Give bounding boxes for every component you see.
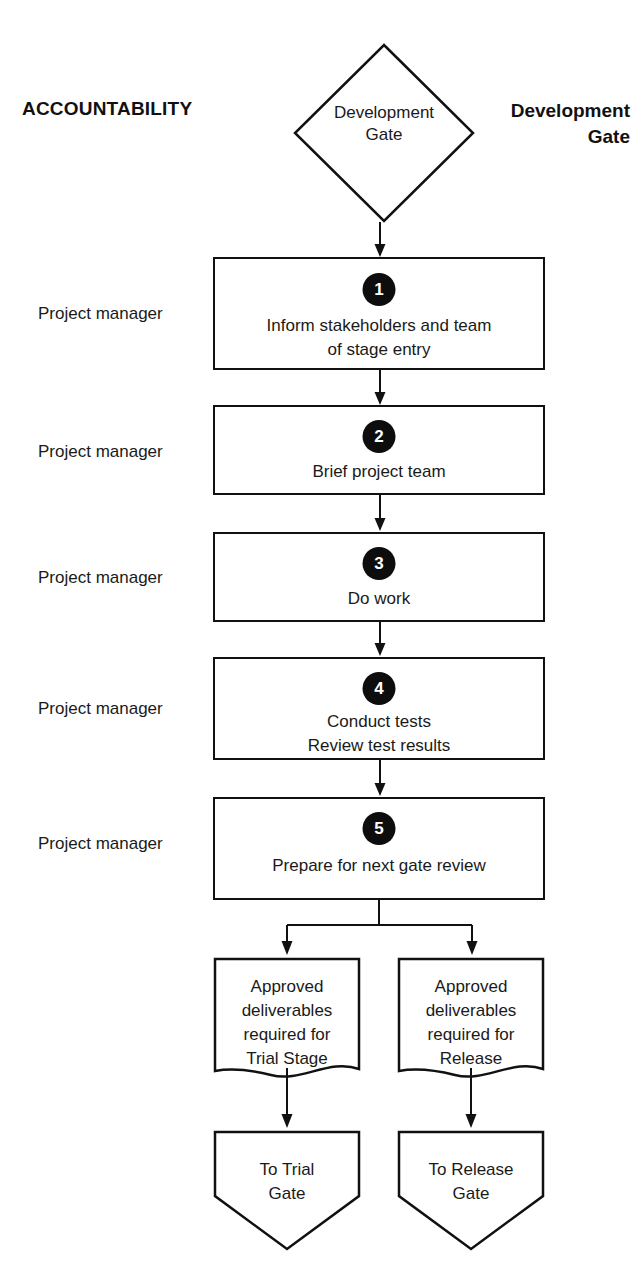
document-deliverables-release-line2: deliverables: [397, 999, 545, 1023]
process-box-step3[interactable]: 3 Do work: [213, 532, 545, 622]
process-box-step3-line1: Do work: [215, 587, 543, 611]
role-label-step4: Project manager: [38, 698, 206, 719]
process-box-step1[interactable]: 1 Inform stakeholders and team of stage …: [213, 257, 545, 370]
terminator-to-trial-gate-line2: Gate: [213, 1182, 361, 1206]
role-label-step2: Project manager: [38, 441, 206, 462]
connector-gate-to-step1: [371, 222, 389, 258]
document-deliverables-trial-text: Approved deliverables required for Trial…: [213, 975, 361, 1071]
terminator-to-trial-gate: To Trial Gate: [213, 1130, 361, 1252]
process-box-step5[interactable]: 5 Prepare for next gate review: [213, 797, 545, 900]
terminator-to-release-gate: To Release Gate: [397, 1130, 545, 1252]
development-gate-diamond: Development Gate: [292, 42, 476, 224]
process-box-step2[interactable]: 2 Brief project team: [213, 405, 545, 495]
process-box-step1-line2: of stage entry: [215, 338, 543, 362]
terminator-to-trial-gate-line1: To Trial: [213, 1158, 361, 1182]
step-badge-3: 3: [363, 547, 396, 580]
process-box-step4-line2: Review test results: [215, 734, 543, 758]
connector-trial-doc-to-terminator: [278, 1068, 296, 1130]
development-gate-diamond-line1: Development: [292, 102, 476, 124]
process-box-step1-line1: Inform stakeholders and team: [215, 314, 543, 338]
connector-step3-to-step4: [371, 622, 389, 657]
document-deliverables-trial-line1: Approved: [213, 975, 361, 999]
document-deliverables-trial-line3: required for: [213, 1023, 361, 1047]
connector-step4-to-step5: [371, 760, 389, 797]
terminator-to-release-gate-text: To Release Gate: [397, 1158, 545, 1206]
connector-step2-to-step3: [371, 495, 389, 532]
step-badge-4: 4: [363, 672, 396, 705]
process-box-step5-text: Prepare for next gate review: [215, 854, 543, 878]
role-label-step1: Project manager: [38, 303, 206, 324]
flowchart-canvas: ACCOUNTABILITY Development Gate Developm…: [0, 0, 642, 1276]
development-gate-side-label-line1: Development: [480, 98, 630, 124]
document-deliverables-release-text: Approved deliverables required for Relea…: [397, 975, 545, 1071]
process-box-step4-text: Conduct tests Review test results: [215, 710, 543, 758]
connector-step1-to-step2: [371, 370, 389, 406]
process-box-step4-line1: Conduct tests: [215, 710, 543, 734]
process-box-step2-line1: Brief project team: [215, 460, 543, 484]
process-box-step3-text: Do work: [215, 587, 543, 611]
process-box-step2-text: Brief project team: [215, 460, 543, 484]
terminator-to-release-gate-line2: Gate: [397, 1182, 545, 1206]
document-deliverables-release-line1: Approved: [397, 975, 545, 999]
process-box-step5-line1: Prepare for next gate review: [215, 854, 543, 878]
development-gate-diamond-line2: Gate: [292, 124, 476, 146]
terminator-to-release-gate-line1: To Release: [397, 1158, 545, 1182]
role-label-step5: Project manager: [38, 833, 206, 854]
connector-release-doc-to-terminator: [462, 1068, 480, 1130]
accountability-column-heading: ACCOUNTABILITY: [22, 98, 192, 120]
role-label-step3: Project manager: [38, 567, 206, 588]
terminator-to-trial-gate-text: To Trial Gate: [213, 1158, 361, 1206]
process-box-step4[interactable]: 4 Conduct tests Review test results: [213, 657, 545, 760]
step-badge-5: 5: [363, 812, 396, 845]
process-box-step1-text: Inform stakeholders and team of stage en…: [215, 314, 543, 362]
document-deliverables-trial-line2: deliverables: [213, 999, 361, 1023]
document-deliverables-release-line3: required for: [397, 1023, 545, 1047]
connector-step5-split: [280, 900, 480, 960]
step-badge-2: 2: [363, 420, 396, 453]
development-gate-side-label-line2: Gate: [480, 124, 630, 150]
step-badge-1: 1: [363, 273, 396, 306]
development-gate-side-label: Development Gate: [480, 98, 630, 150]
development-gate-diamond-text: Development Gate: [292, 102, 476, 146]
